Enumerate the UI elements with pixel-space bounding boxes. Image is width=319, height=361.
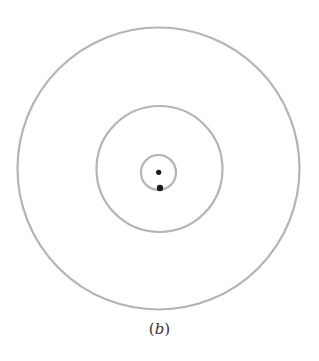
concentric-circles-diagram bbox=[0, 0, 319, 361]
orbit-dot bbox=[157, 185, 163, 191]
outer-circle bbox=[18, 28, 300, 310]
middle-circle bbox=[97, 106, 223, 232]
caption-letter: b bbox=[155, 320, 165, 338]
center-dot bbox=[156, 170, 161, 175]
caption-close-paren: ) bbox=[164, 320, 170, 338]
figure-caption: (b) bbox=[0, 320, 319, 338]
